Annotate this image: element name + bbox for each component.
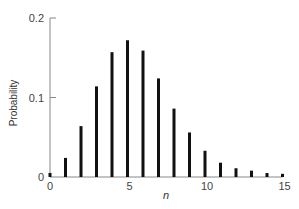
x-axis-label: n: [163, 189, 169, 201]
y-tick-label: 0.2: [29, 12, 44, 24]
bar-n-5: [126, 40, 129, 177]
y-tick-label: 0.1: [29, 92, 44, 104]
x-tick-label: 0: [47, 180, 53, 192]
bar-n-13: [250, 171, 253, 177]
bar-n-0: [49, 173, 52, 177]
y-axis-label: Probability: [8, 80, 19, 127]
x-tick-label: 15: [278, 180, 290, 192]
x-tick-label: 10: [201, 180, 213, 192]
bars: [49, 40, 285, 177]
x-tick-label: 5: [126, 180, 132, 192]
bar-n-3: [95, 86, 98, 177]
bar-n-2: [80, 126, 83, 177]
bar-n-15: [281, 174, 284, 177]
probability-bar-chart: 00.10.2051015 Probability n: [0, 0, 299, 209]
bar-n-4: [111, 52, 114, 177]
bar-n-11: [219, 163, 222, 177]
axes: [50, 18, 283, 177]
bar-n-14: [266, 173, 269, 177]
bar-n-1: [64, 158, 67, 177]
bar-n-7: [157, 78, 160, 177]
y-tick-label: 0: [38, 171, 44, 183]
bar-n-12: [235, 168, 238, 177]
bar-n-6: [142, 51, 145, 177]
bar-n-9: [188, 132, 191, 177]
bar-n-10: [204, 151, 207, 177]
bar-n-8: [173, 109, 176, 177]
